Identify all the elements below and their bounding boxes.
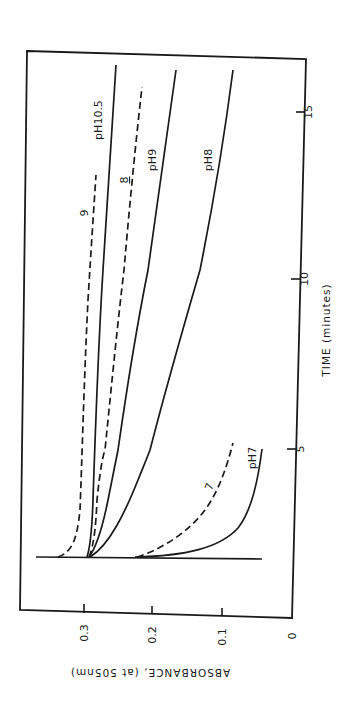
absorbance-axis-label: ABSORBANCE, (at 505nm): [70, 667, 230, 679]
label-9-dashed: 9: [78, 210, 91, 217]
curve-7-dashed: [137, 443, 233, 557]
curve-ph9: [89, 70, 176, 557]
curve-9-dashed: [58, 175, 96, 557]
label-8-dashed: 8: [118, 177, 131, 184]
label-ph9: pH9: [146, 149, 159, 171]
abs-tick-label-0.3: 0.3: [78, 624, 91, 642]
time-tick-label-10: 10: [298, 272, 311, 286]
time-tick-label-5: 5: [294, 446, 307, 453]
label-7-dashed: 7: [202, 481, 217, 492]
label-ph7: pH7: [246, 447, 259, 469]
abs-tick-label-0: 0: [286, 633, 299, 640]
absorbance-time-chart: 15 10 5 TIME (minutes) 0.3 0.2 0.1 0 ABS…: [0, 0, 352, 720]
curve-ph7: [135, 449, 262, 557]
time-tick-label-15: 15: [302, 105, 315, 119]
curve-8-dashed: [89, 87, 142, 557]
abs-tick-label-0.1: 0.1: [216, 628, 229, 646]
time-axis-label: TIME (minutes): [320, 283, 332, 377]
plot-frame: [20, 51, 306, 618]
label-ph8: pH8: [202, 149, 215, 171]
label-ph10.5: pH10.5: [92, 100, 105, 140]
abs-tick-label-0.2: 0.2: [146, 626, 159, 644]
